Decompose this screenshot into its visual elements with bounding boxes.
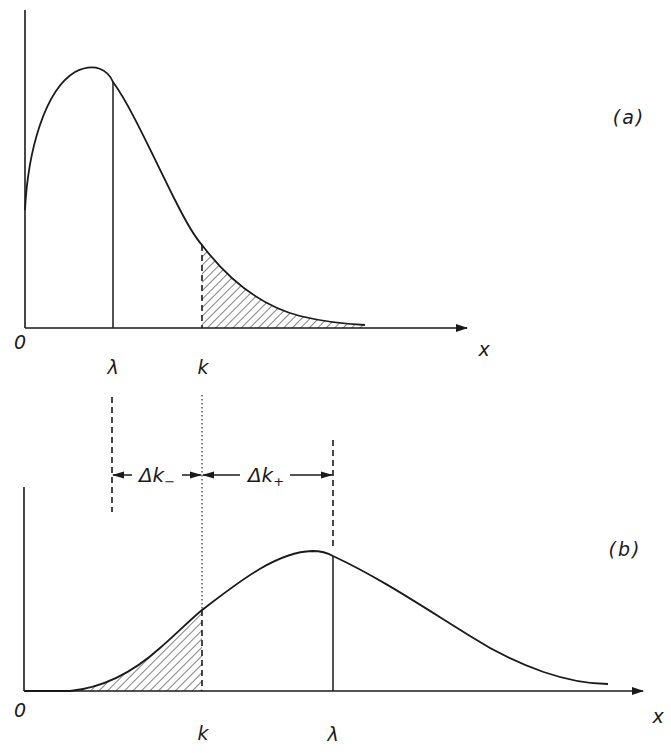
k-label-b: k [197, 724, 208, 743]
density-curve-b [24, 551, 608, 691]
density-curve-a [25, 67, 365, 325]
delta-k-plus-subscript: + [273, 474, 284, 489]
x-axis-label-b: x [652, 707, 663, 726]
origin-label-b: 0 [14, 701, 26, 720]
delta-k-minus-label: Δk− [139, 465, 175, 488]
delta-k-plus-symbol: Δk [248, 463, 273, 487]
lambda-label-a: λ [107, 358, 118, 377]
panel-b [24, 487, 643, 691]
panel-a [25, 10, 467, 328]
shaded-lower-tail [70, 610, 202, 691]
delta-k-minus-subscript: − [164, 474, 175, 489]
delta-k-minus-symbol: Δk [139, 463, 164, 487]
lambda-label-b: λ [327, 725, 338, 744]
delta-k-plus-label: Δk+ [248, 465, 284, 488]
distribution-diagram [0, 0, 671, 753]
panel-b-label: (b) [609, 540, 642, 559]
figure: (a) 0 λ k x Δk− Δk+ (b) 0 k λ x [0, 0, 671, 753]
interval-annotations [112, 395, 333, 610]
origin-label-a: 0 [14, 333, 26, 352]
x-axis-label-a: x [478, 340, 489, 359]
k-label-a: k [197, 358, 208, 377]
shaded-upper-tail [202, 245, 365, 328]
panel-a-label: (a) [613, 108, 645, 127]
